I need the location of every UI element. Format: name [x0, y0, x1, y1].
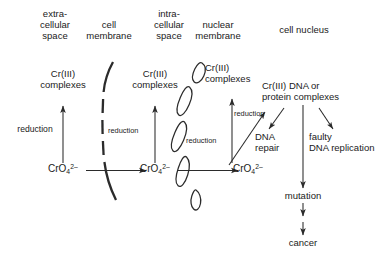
zone-label-cell-nucleus: cell nucleus [264, 24, 344, 35]
process-label-reduction-extracellular: reduction [12, 124, 58, 134]
node-chromate-nuclear: CrO42– [233, 163, 263, 176]
node-cr3-complexes-extracellular: Cr(III) complexes [28, 68, 98, 90]
node-cr3-dna-protein-complexes: Cr(III) DNA or protein complexes [262, 80, 380, 102]
node-chromate-extracellular: CrO42– [48, 163, 78, 176]
node-cr3-complexes-intracellular: Cr(III) complexes [120, 68, 190, 90]
node-dna-repair: DNA repair [255, 131, 301, 153]
chromium-genotoxicity-diagram: extra- cellular space cell membrane intr… [0, 0, 391, 260]
node-chromate-intracellular: CrO42– [140, 163, 170, 176]
chromate-3-formula: CrO [233, 163, 251, 174]
node-cr3-complexes-nuclear: Cr(III) complexes [205, 62, 263, 84]
chromate-2-formula: CrO [140, 163, 158, 174]
arrow-to-faulty-replication [319, 108, 333, 129]
node-faulty-dna-replication: faulty DNA replication [309, 131, 391, 153]
chromate-1-formula: CrO [48, 163, 66, 174]
node-cancer: cancer [276, 237, 330, 248]
chromate-3-superscript: 2– [255, 163, 263, 170]
chromate-1-superscript: 2– [70, 163, 78, 170]
zone-label-nuclear-membrane: nuclear membrane [185, 19, 251, 41]
process-label-reduction-nuclear: reduction [234, 110, 280, 119]
zone-label-cell-membrane: cell membrane [75, 19, 143, 41]
process-label-reduction-membrane: reduction [108, 127, 152, 136]
chromate-2-superscript: 2– [162, 163, 170, 170]
node-mutation: mutation [273, 190, 333, 201]
process-label-reduction-intracellular: reduction [186, 137, 230, 146]
